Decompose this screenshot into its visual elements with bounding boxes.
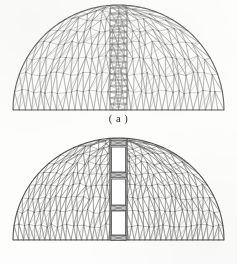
dome-mesh-a bbox=[0, 0, 237, 120]
figure-panel-b: ( b ) bbox=[0, 132, 237, 264]
figure-panel-a: ( a ) bbox=[0, 0, 237, 132]
figure-page: ( a ) ( b ) bbox=[0, 0, 237, 264]
caption-a: ( a ) bbox=[0, 113, 237, 125]
dome-mesh-b bbox=[0, 132, 237, 252]
